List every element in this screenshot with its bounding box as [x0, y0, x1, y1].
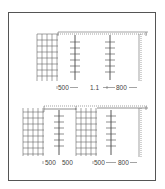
- bottom-figure-grid-middle: [76, 108, 97, 156]
- top-dim-label-1: 500: [58, 84, 69, 91]
- top-dim-label-3: 800: [116, 84, 127, 91]
- bottom-dim-label-3: 500: [94, 159, 105, 166]
- top-figure-grid: [37, 34, 58, 81]
- bottom-dim-label-2: 500: [62, 159, 73, 166]
- bottom-dim-label-4: 800: [118, 159, 129, 166]
- top-dim-label-2: 1.1: [90, 84, 99, 91]
- diagram-drawing: [0, 0, 165, 189]
- bottom-figure-column-1: [54, 110, 64, 155]
- top-figure-column-2: [105, 35, 115, 80]
- bottom-figure-post: [139, 106, 146, 157]
- bottom-figure-grid-left: [23, 108, 44, 156]
- bottom-figure-column-2: [106, 110, 116, 155]
- top-figure-column-1: [70, 35, 80, 80]
- top-figure-beam: [58, 32, 148, 36]
- top-figure-post: [139, 32, 146, 81]
- bottom-dim-label-1: 500: [45, 159, 56, 166]
